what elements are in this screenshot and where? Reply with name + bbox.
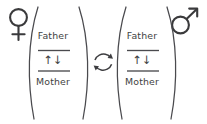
mars-symbol	[172, 9, 197, 34]
venus-symbol	[10, 9, 27, 40]
right-group-mother-label: Mother	[117, 77, 167, 86]
right-group-father-label: Father	[117, 31, 167, 40]
left-group-father-label: Father	[28, 31, 78, 40]
genetics-inheritance-diagram: Father ↑↓ Mother Father ↑↓ Mother	[0, 0, 207, 124]
left-group-allele-pair: ↑↓	[28, 55, 78, 67]
left-group-mother-label: Mother	[28, 77, 78, 86]
cycle-arrows-icon	[94, 54, 113, 71]
right-group-allele-pair: ↑↓	[117, 55, 167, 67]
